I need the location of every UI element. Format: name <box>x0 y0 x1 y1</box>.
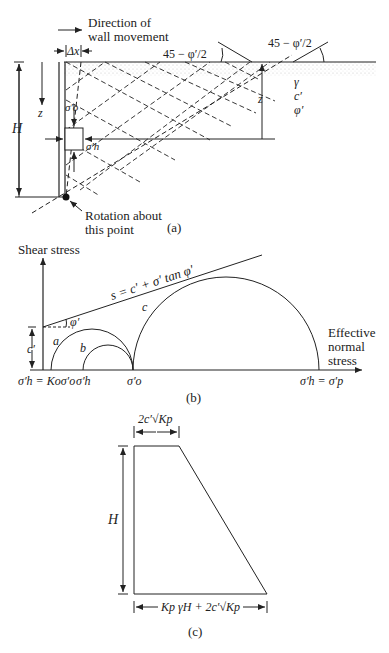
panel-c: 2c′√Kp H Kp γH + 2c′√Kp (c) <box>107 412 267 639</box>
gamma-label: γ <box>294 75 299 89</box>
x-axis-label-2: normal <box>328 339 365 354</box>
x-tick-ko-sigma: σ′h = Koσ′o <box>18 374 75 388</box>
bottom-width-label: Kp γH + 2c′√Kp <box>160 600 240 614</box>
y-axis-label: Shear stress <box>18 242 80 257</box>
circle-c-label: c <box>142 300 148 314</box>
h-label: H <box>11 121 23 136</box>
x-axis-label-3: stress <box>328 353 357 368</box>
soil-element <box>65 128 83 150</box>
rotation-label-2: this point <box>85 222 134 237</box>
diagram: σ′o σ′h Rotation about this point (a) H … <box>0 0 389 653</box>
z-left-label: z <box>37 106 43 120</box>
panel-b-caption: (b) <box>186 390 201 405</box>
circle-b-label: b <box>80 341 86 355</box>
angle-arc-left <box>221 48 223 62</box>
phi-prime-label: φ′ <box>294 103 304 117</box>
c-label: c′ <box>27 342 35 356</box>
angle-label-left: 45 − φ′/2 <box>163 47 207 61</box>
sigma-h-label: σ′h <box>86 140 100 152</box>
h-c-label: H <box>107 512 119 527</box>
pressure-distribution <box>134 446 267 594</box>
mohr-circle-b <box>83 345 133 370</box>
rotation-label-1: Rotation about <box>85 208 162 223</box>
phi-arc <box>66 319 67 327</box>
x-tick-sigma-h: σ′h <box>76 374 91 388</box>
rotation-pointer-arrow <box>70 201 82 211</box>
z-right-label: z <box>257 92 263 106</box>
panel-b: Shear stress Effective normal stress s =… <box>18 242 376 405</box>
delta-x-label: Δx <box>66 44 80 58</box>
direction-label-1: Direction of <box>88 15 152 30</box>
c-prime-label: c′ <box>294 89 302 103</box>
panel-a: σ′o σ′h Rotation about this point (a) H … <box>11 15 376 237</box>
mohr-circle-c <box>133 277 319 370</box>
panel-c-caption: (c) <box>188 624 202 639</box>
top-width-label: 2c′√Kp <box>138 412 173 426</box>
x-tick-sigma-o: σ′o <box>127 374 142 388</box>
angle-arc-right <box>320 48 324 62</box>
circle-a-label: a <box>53 334 59 348</box>
x-axis-label-1: Effective <box>328 325 376 340</box>
x-tick-sigma-p: σ′h = σ′p <box>300 374 343 388</box>
direction-label-2: wall movement <box>88 29 169 44</box>
rotation-point <box>63 194 70 201</box>
sigma-o-label: σ′o <box>65 101 79 113</box>
envelope-label: s = c′ + σ′ tan φ′ <box>108 262 195 303</box>
panel-a-caption: (a) <box>167 220 181 235</box>
soil-surface-stipple <box>64 62 376 76</box>
phi-label: φ′ <box>70 315 80 329</box>
mohr-circle-a <box>51 329 133 370</box>
angle-label-right: 45 − φ′/2 <box>268 36 312 50</box>
